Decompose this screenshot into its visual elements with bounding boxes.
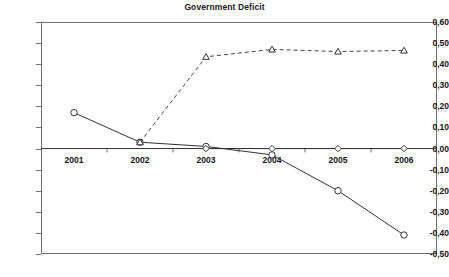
- series-line-triangle: [140, 49, 404, 142]
- data-point-circle: [71, 109, 77, 115]
- data-point-diamond: [335, 145, 341, 151]
- data-point-diamond: [269, 145, 275, 151]
- data-point-circle: [269, 152, 275, 158]
- series-line-circle: [74, 113, 404, 235]
- data-point-circle: [401, 232, 407, 238]
- chart-container: Government Deficit 0,600,500,400,300,200…: [0, 0, 449, 277]
- data-point-diamond: [401, 145, 407, 151]
- data-point-triangle: [203, 54, 210, 60]
- chart-series-layer: [0, 0, 449, 277]
- data-point-circle: [335, 188, 341, 194]
